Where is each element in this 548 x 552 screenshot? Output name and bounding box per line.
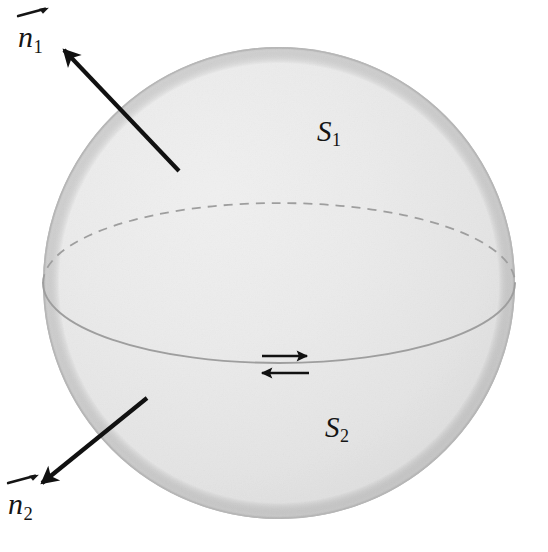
sphere-body <box>43 47 515 519</box>
surface-lower-label: S2 <box>325 413 349 445</box>
vector-n1: n 1 <box>18 22 43 56</box>
S2-subscript: 2 <box>340 426 349 446</box>
n1-base: n <box>18 20 33 53</box>
vector-arrow-icon <box>6 474 41 487</box>
figure-container: n 1 n 2 S1 S2 <box>0 0 548 552</box>
normal-vector-top-label: n 1 <box>18 22 43 56</box>
vector-n2: n 2 <box>8 489 33 523</box>
S1-subscript: 1 <box>332 130 341 150</box>
n1-subscript: 1 <box>33 36 43 57</box>
normal-vector-bottom-label: n 2 <box>8 489 33 523</box>
sphere-rim-shadow <box>43 47 515 519</box>
S1-base: S <box>317 115 332 147</box>
surface-upper-label: S1 <box>317 117 341 149</box>
S2-base: S <box>325 411 340 443</box>
n2-subscript: 2 <box>23 503 33 524</box>
vector-arrow-icon <box>16 7 51 20</box>
n1-symbol: n <box>18 22 33 52</box>
n2-base: n <box>8 487 23 520</box>
sphere-diagram-svg <box>0 0 548 552</box>
n2-symbol: n <box>8 489 23 519</box>
